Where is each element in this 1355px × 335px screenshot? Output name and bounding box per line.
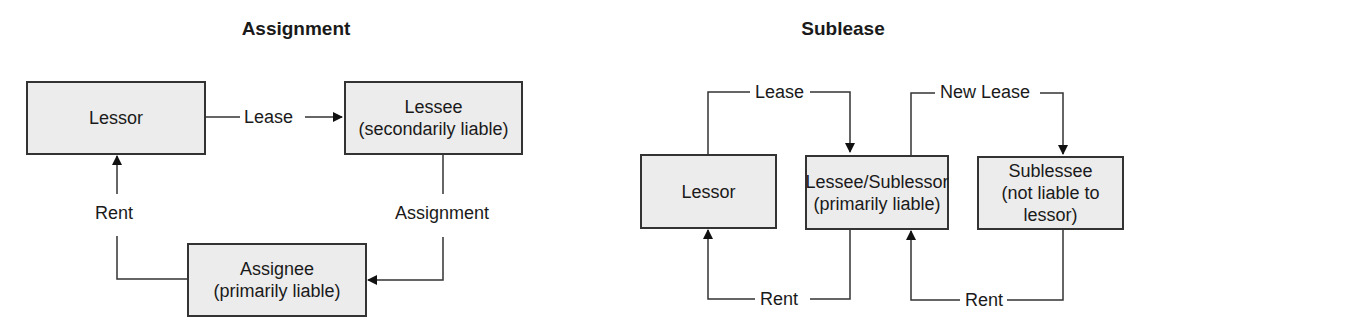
assignment-lessor-label: Lessor [89, 107, 143, 129]
assignment-assignee-box: Assignee (primarily liable) [187, 243, 367, 317]
sublease-lease-label: Lease [751, 82, 808, 102]
assignment-lessor-box: Lessor [26, 81, 206, 155]
sublease-title: Sublease [783, 18, 903, 40]
sublease-sublessor-sublabel: (primarily liable) [813, 193, 940, 215]
assignment-assignment-label: Assignment [391, 203, 493, 223]
assignment-title: Assignment [196, 18, 396, 40]
sublease-lessor-label: Lessor [681, 181, 735, 203]
assignment-assignee-sublabel: (primarily liable) [213, 280, 340, 302]
sublease-rent-label-2: Rent [961, 290, 1007, 310]
sublease-sublessor-label: Lessee/Sublessor [805, 171, 948, 193]
sublease-sublessor-box: Lessee/Sublessor (primarily liable) [805, 155, 949, 230]
assignment-rent-label: Rent [91, 203, 137, 223]
assignment-lease-label: Lease [240, 107, 297, 127]
sublease-new-lease-label: New Lease [936, 82, 1034, 102]
assignment-lessee-sublabel: (secondarily liable) [358, 118, 508, 140]
sublease-sublessee-label: Sublessee [1008, 160, 1092, 182]
sublease-rent-label-1: Rent [756, 289, 802, 309]
sublease-sublessee-box: Sublessee (not liable to lessor) [977, 156, 1124, 230]
sublease-lessor-box: Lessor [640, 154, 777, 229]
assignment-assignee-label: Assignee [240, 258, 314, 280]
assignment-lessee-box: Lessee (secondarily liable) [344, 81, 523, 155]
sublease-sublessee-sublabel: (not liable to lessor) [979, 182, 1122, 226]
assignment-lessee-label: Lessee [404, 96, 462, 118]
